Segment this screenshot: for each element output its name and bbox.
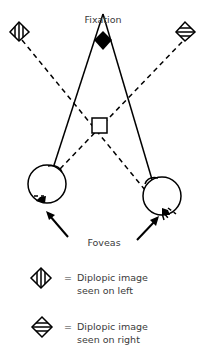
right-eye-icon — [143, 177, 181, 215]
legend: = Diplopic image seen on left = Diplopic… — [30, 266, 148, 345]
vertical-stripe-diamond-icon — [31, 266, 51, 290]
horizontal-stripe-diamond-icon — [30, 317, 54, 337]
legend-text-line1: Diplopic image — [77, 321, 148, 332]
left-fovea-arrow — [50, 216, 68, 237]
legend-text-line2: seen on left — [77, 285, 133, 296]
left-diplopic-image-icon — [10, 20, 29, 44]
right-diplopic-image-icon — [174, 22, 197, 41]
foveas-label: Foveas — [87, 237, 120, 248]
legend-item-right: = Diplopic image seen on right — [30, 317, 148, 345]
fixation-label: Fixation — [84, 14, 121, 25]
right-fovea-arrow — [137, 221, 155, 240]
legend-equals: = — [64, 272, 72, 283]
fovea-arrows — [46, 211, 159, 240]
diplopia-diagram: Fixation — [0, 0, 210, 350]
legend-text-line2: seen on right — [77, 334, 140, 345]
object-square-icon — [92, 118, 107, 133]
legend-equals: = — [64, 321, 72, 332]
legend-item-left: = Diplopic image seen on left — [31, 266, 148, 296]
left-eye-icon — [28, 165, 66, 203]
legend-text-line1: Diplopic image — [77, 272, 148, 283]
